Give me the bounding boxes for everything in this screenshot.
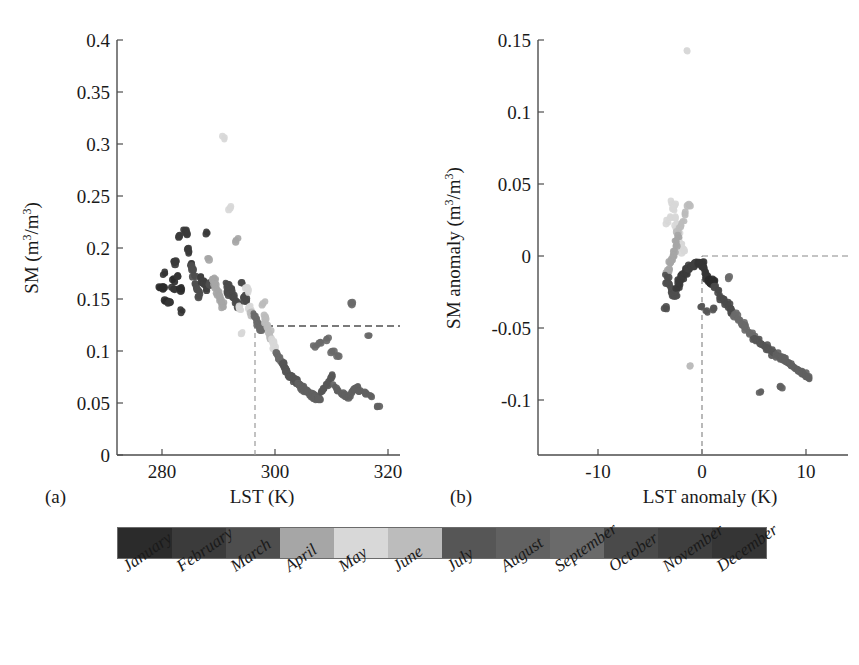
scatter-point <box>166 298 174 306</box>
panel-a-ylabel-p1: SM (m <box>21 240 43 294</box>
scatter-point <box>175 272 181 278</box>
scatter-point <box>682 209 689 216</box>
colorbar-month-labels: JanuaryFebruaryMarchAprilMayJuneJulyAugu… <box>117 560 765 660</box>
panel-b-ylabel-p2: /m <box>443 179 464 199</box>
scatter-point <box>684 47 691 54</box>
panel-a-xtick-2: 320 <box>374 461 403 482</box>
panel-a-y-ticks <box>117 40 123 455</box>
month-colorbar-legend: JanuaryFebruaryMarchAprilMayJuneJulyAugu… <box>0 510 859 665</box>
panel-a-ytick-3: 0.15 <box>77 289 110 310</box>
scatter-point <box>190 267 196 273</box>
scatter-point <box>176 285 183 292</box>
scatter-point <box>259 302 266 309</box>
panel-b-ytick-5: 0.15 <box>498 30 531 51</box>
panel-a-xtick-1: 300 <box>261 461 290 482</box>
scatter-point <box>256 326 264 334</box>
panel-b-ytick-3: 0.05 <box>498 174 531 195</box>
panel-a-data-points <box>155 133 383 410</box>
scatter-point <box>235 235 242 242</box>
panel-b-xlabel: LST anomaly (K) <box>643 486 778 508</box>
scatter-point <box>160 284 168 292</box>
panel-a-ylabel-p2: /m <box>21 214 42 234</box>
scatter-point <box>711 305 717 311</box>
panel-a-ytick-5: 0.25 <box>77 186 110 207</box>
scatter-point <box>682 248 688 254</box>
scatter-point <box>238 331 245 338</box>
panel-a-scatter: 0 0.05 0.1 0.15 0.2 0.25 0.3 0.35 0.4 28… <box>0 0 430 510</box>
scatter-point <box>347 299 355 307</box>
panel-a-ytick-2: 0.1 <box>86 341 110 362</box>
scatter-point <box>742 324 748 330</box>
panel-a-ytick-6: 0.3 <box>86 134 110 155</box>
scatter-point <box>178 309 185 316</box>
scatter-point <box>229 288 235 294</box>
panel-b-ylabel-p3: ) <box>443 167 465 173</box>
scatter-point <box>667 259 674 266</box>
scatter-point <box>756 389 762 395</box>
scatter-point <box>168 284 175 291</box>
panel-b-xtick-1: 0 <box>697 461 707 482</box>
svg-text:SM (m3/m3): SM (m3/m3) <box>20 202 43 294</box>
scatter-point <box>227 203 234 210</box>
panel-b-ytick-4: 0.1 <box>507 102 531 123</box>
scatter-point <box>203 229 209 235</box>
panel-b-ytick-1: -0.05 <box>491 318 531 339</box>
panel-b-ytick-0: -0.1 <box>501 390 531 411</box>
svg-text:SM anomaly (m3/m3): SM anomaly (m3/m3) <box>442 167 465 329</box>
panel-b-data-points <box>661 47 813 396</box>
scatter-point <box>204 255 210 261</box>
scatter-point <box>669 205 676 212</box>
scatter-point <box>709 275 717 283</box>
scatter-point <box>315 396 322 403</box>
scatter-point <box>697 304 703 310</box>
scatter-point <box>240 297 248 305</box>
panel-b-y-ticks <box>538 40 544 400</box>
scatter-point <box>316 339 323 346</box>
panel-b-ylabel-p1: SM anomaly (m <box>443 205 465 329</box>
scatter-point <box>805 373 812 380</box>
scatter-point <box>678 222 685 229</box>
scatter-point <box>673 213 679 219</box>
scatter-point <box>333 352 340 359</box>
scatter-point <box>355 388 362 395</box>
panel-a-ytick-7: 0.35 <box>77 82 110 103</box>
panel-a-ytick-0: 0 <box>101 445 111 466</box>
scatter-point <box>777 383 784 390</box>
panel-a-ytick-4: 0.2 <box>86 238 110 259</box>
scatter-point <box>238 307 244 313</box>
scatter-point <box>323 337 330 344</box>
scatter-point <box>245 287 252 294</box>
panel-b-svg: 0.15 0.1 0.05 0 -0.05 -0.1 -10 0 10 LST … <box>430 0 859 510</box>
panel-a-xtick-0: 280 <box>148 461 177 482</box>
panel-a-ylabel-p3: ) <box>21 202 43 208</box>
panel-a-xlabel: LST (K) <box>230 486 295 508</box>
scatter-point <box>661 305 668 312</box>
scatter-point <box>329 371 335 377</box>
scatter-point <box>196 288 202 294</box>
scatter-point <box>175 234 182 241</box>
scatter-point <box>704 307 710 313</box>
panel-a-x-ticks <box>162 449 388 455</box>
panel-b-xtick-0: -10 <box>585 461 610 482</box>
scatter-point <box>364 332 370 338</box>
scatter-point <box>367 392 373 398</box>
panel-a-ytick-1: 0.05 <box>77 393 110 414</box>
scatter-point <box>218 305 225 312</box>
scatter-point <box>374 404 380 410</box>
panel-b-ytick-2: 0 <box>522 246 532 267</box>
panel-a-ytick-8: 0.4 <box>86 30 110 51</box>
scatter-point <box>184 230 191 237</box>
scatter-point <box>687 362 693 368</box>
scatter-point <box>687 203 694 210</box>
scatter-point <box>185 250 192 257</box>
panel-b-xtick-2: 10 <box>797 461 816 482</box>
figure-root: 0 0.05 0.1 0.15 0.2 0.25 0.3 0.35 0.4 28… <box>0 0 859 665</box>
scatter-point <box>161 269 168 276</box>
panel-b-scatter: 0.15 0.1 0.05 0 -0.05 -0.1 -10 0 10 LST … <box>430 0 859 510</box>
scatter-point <box>171 258 179 266</box>
panel-b-ylabel: SM anomaly (m3/m3) <box>442 167 465 329</box>
scatter-point <box>662 272 668 278</box>
scatter-point <box>726 273 733 280</box>
scatter-point <box>219 133 226 140</box>
panel-a-svg: 0 0.05 0.1 0.15 0.2 0.25 0.3 0.35 0.4 28… <box>0 0 430 510</box>
